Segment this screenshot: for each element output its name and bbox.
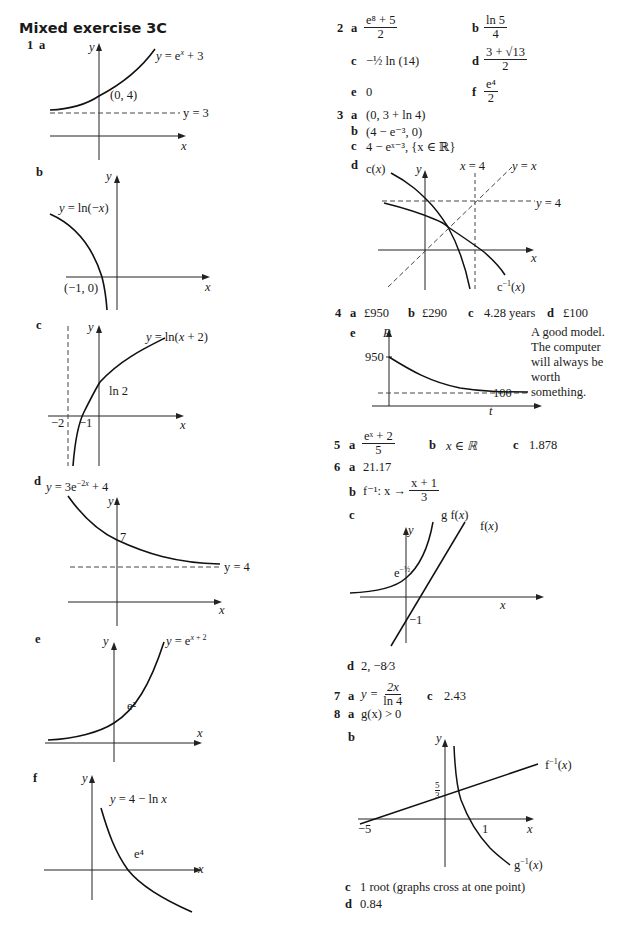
q2d-answer: 3 + √132 [484, 46, 527, 73]
q5c-label: c [513, 438, 519, 453]
graph-1d-y-axis: y [108, 494, 114, 509]
graph-3d-diag-label: y = x [512, 159, 536, 174]
graph-1a-point: (0, 4) [110, 88, 137, 103]
q4e-label: e [350, 326, 356, 341]
graph-3d-vline-label: x = 4 [460, 159, 485, 174]
q2f-label: f [472, 85, 476, 100]
q2c-answer: −½ ln (14) [366, 54, 419, 69]
q8d-answer: 0.84 [360, 897, 382, 912]
graph-1f-y-axis: y [82, 771, 88, 786]
graph-6c-f-label: f(x) [480, 519, 498, 534]
graph-1a-y-axis: y [89, 40, 95, 55]
graph-1b-y-axis: y [106, 169, 112, 184]
graph-6c [350, 510, 570, 650]
graph-1e-curve-label: y = ex + 2 [166, 633, 207, 649]
graph-4e-asymptote: 100 [493, 386, 512, 401]
q7a-label: a [348, 689, 354, 704]
graph-8b-ginv-label: g−1(x) [514, 857, 543, 873]
graph-8b-tick-neg5: −5 [358, 822, 371, 837]
graph-3d-hline-label: y = 4 [536, 196, 561, 211]
graph-6c-intercept-gf: e−½ [394, 565, 410, 581]
q5a-label: a [349, 438, 355, 453]
graph-4e-p-axis: P [383, 326, 391, 341]
q6a-label: a [349, 460, 355, 475]
graph-8b-x-axis: x [527, 822, 533, 837]
graph-1f [0, 770, 311, 910]
q2b-den: 4 [490, 28, 500, 41]
graph-1e [0, 630, 311, 770]
q2a-answer: e⁸ + 52 [364, 14, 397, 41]
q2e-answer: 0 [366, 85, 372, 100]
q2b-num: ln 5 [484, 14, 507, 28]
q3-number: 3 [337, 108, 343, 123]
q7a-answer: y = 2xln 4 [361, 681, 404, 708]
graph-3d-y-axis: y [416, 162, 422, 177]
graph-6c-y-axis: y [408, 523, 414, 538]
q6d-label: d [347, 659, 354, 674]
q4-number: 4 [335, 306, 341, 321]
q7c-label: c [427, 689, 433, 704]
graph-1b-curve-label: y = ln(−x) [59, 201, 109, 216]
q2d-den: 2 [500, 60, 510, 73]
q2d-num: 3 + √13 [484, 46, 527, 60]
graph-1c-tick-neg2: −2 [51, 416, 64, 431]
q8c-label: c [345, 880, 351, 895]
q5-number: 5 [334, 438, 340, 453]
graph-8b-y-axis: y [436, 731, 442, 746]
graph-8b-tick-1: 1 [482, 822, 488, 837]
q4d-answer: £100 [563, 306, 588, 321]
q4d-label: d [547, 306, 554, 321]
q6b-label: b [349, 485, 356, 500]
q2f-num: e⁴ [484, 78, 498, 92]
graph-3d-cinv-label: c−1(x) [497, 279, 525, 295]
q2b-label: b [472, 21, 479, 36]
q2d-label: d [472, 54, 479, 69]
q6b-prefix: f⁻¹: x → [363, 484, 406, 498]
q2a-den: 2 [376, 28, 386, 41]
q8c-answer: 1 root (graphs cross at one point) [360, 880, 525, 895]
graph-1c-y-axis: y [88, 320, 94, 335]
graph-1c-tick-neg1: −1 [79, 416, 92, 431]
q3b-answer: (4 − e⁻³, 0) [366, 124, 422, 140]
q4b-label: b [408, 306, 415, 321]
graph-1f-x-axis: x [198, 862, 204, 877]
q5a-den: 5 [373, 444, 383, 457]
graph-3d-c-label: c(x) [366, 162, 385, 177]
q4c-answer: 4.28 years [484, 306, 535, 321]
graph-1f-intercept: e⁴ [134, 847, 144, 862]
graph-6c-x-axis: x [500, 598, 506, 613]
q5a-num: eˣ + 2 [362, 430, 395, 444]
q2a-num: e⁸ + 5 [364, 14, 397, 28]
q7a-prefix: y = [361, 687, 378, 701]
q6b-den: 3 [419, 491, 429, 504]
graph-1c-intercept: ln 2 [109, 384, 128, 399]
q5b-label: b [429, 438, 436, 453]
q7c-answer: 2.43 [444, 689, 466, 704]
graph-4e-start: 950 [365, 350, 384, 365]
q4b-answer: £290 [422, 306, 447, 321]
graph-1c-x-axis: x [180, 418, 186, 433]
q3c-answer: 4 − eˣ⁻³, {x ∈ ℝ} [366, 139, 455, 155]
q5c-answer: 1.878 [529, 438, 557, 453]
q7-number: 7 [334, 689, 340, 704]
q2f-den: 2 [486, 92, 496, 105]
graph-1b-point: (−1, 0) [64, 281, 98, 296]
graph-1a [0, 0, 311, 180]
graph-1d-x-axis: x [219, 603, 225, 618]
q4a-label: a [350, 306, 356, 321]
graph-1d-intercept: 7 [120, 530, 126, 545]
graph-6c-intercept-f: −1 [409, 613, 422, 628]
graph-1d-curve-label: y = 3e−2x + 4 [46, 479, 108, 495]
q2f-answer: e⁴2 [484, 78, 498, 105]
graph-6c-gf-label: g f(x) [441, 508, 468, 523]
q3a-answer: (0, 3 + ln 4) [366, 108, 425, 123]
q3b-label: b [351, 124, 358, 139]
graph-1c-curve-label: y = ln(x + 2) [146, 330, 208, 345]
graph-1e-x-axis: x [197, 726, 203, 741]
q5b-answer: x ∈ ℝ [446, 438, 477, 454]
q6d-answer: 2, −8⁄3 [361, 659, 395, 674]
graph-1e-y-axis: y [103, 634, 109, 649]
q6b-answer: f⁻¹: x → x + 13 [363, 477, 439, 504]
graph-8b-intercept: 53 [435, 781, 440, 800]
graph-1f-curve-label: y = 4 − ln x [110, 792, 167, 807]
